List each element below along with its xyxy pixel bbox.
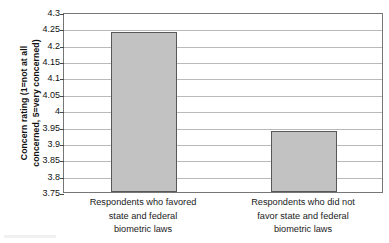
- y-axis-tick: [60, 96, 64, 97]
- bar: [271, 131, 337, 192]
- y-axis-tick-label: 4.3: [24, 9, 60, 18]
- y-axis-tick: [60, 30, 64, 31]
- y-axis-tick: [60, 47, 64, 48]
- y-axis-tick: [60, 14, 64, 15]
- x-axis-category-label: Respondents who favoredstate and federal…: [67, 196, 219, 237]
- x-axis-category-label-line: state and federal: [67, 210, 219, 224]
- y-axis-tick: [60, 79, 64, 80]
- y-axis-tick: [60, 129, 64, 130]
- bar-chart: Concern rating (1=not at all concerned, …: [0, 0, 389, 243]
- x-axis-category-label: Respondents who did notfavor state and f…: [227, 196, 379, 237]
- y-axis-tick: [60, 161, 64, 162]
- y-axis-tick-label: 4: [24, 107, 60, 116]
- y-axis-tick: [60, 112, 64, 113]
- x-axis-category-label-line: biometric laws: [67, 223, 219, 237]
- bar: [111, 32, 177, 192]
- plot-area: [63, 13, 383, 193]
- x-axis-category-labels: Respondents who favoredstate and federal…: [63, 196, 383, 243]
- gridline: [64, 30, 382, 31]
- y-axis-tick-label: 3.8: [24, 172, 60, 181]
- y-axis-tick-label: 3.9: [24, 139, 60, 148]
- y-axis-tick-label: 4.05: [24, 90, 60, 99]
- y-axis-tick-label: 3.85: [24, 156, 60, 165]
- y-axis-tick-label: 3.95: [24, 123, 60, 132]
- x-axis-category-label-line: favor state and federal: [227, 210, 379, 224]
- y-axis-tick-label: 4.25: [24, 25, 60, 34]
- y-axis-tick-label: 3.75: [24, 189, 60, 198]
- y-axis-tick-labels: 4.34.254.24.154.14.0543.953.93.853.83.75: [24, 13, 60, 193]
- y-axis-tick: [60, 145, 64, 146]
- x-axis-category-label-line: Respondents who did not: [227, 196, 379, 210]
- y-axis-tick-label: 4.1: [24, 74, 60, 83]
- y-axis-tick: [60, 178, 64, 179]
- y-axis-tick-label: 4.2: [24, 41, 60, 50]
- x-axis-category-label-line: biometric laws: [227, 223, 379, 237]
- y-axis-tick: [60, 63, 64, 64]
- y-axis-tick-label: 4.15: [24, 58, 60, 67]
- scan-artifact: [4, 235, 56, 238]
- x-axis-category-label-line: Respondents who favored: [67, 196, 219, 210]
- y-axis-tick: [60, 194, 64, 195]
